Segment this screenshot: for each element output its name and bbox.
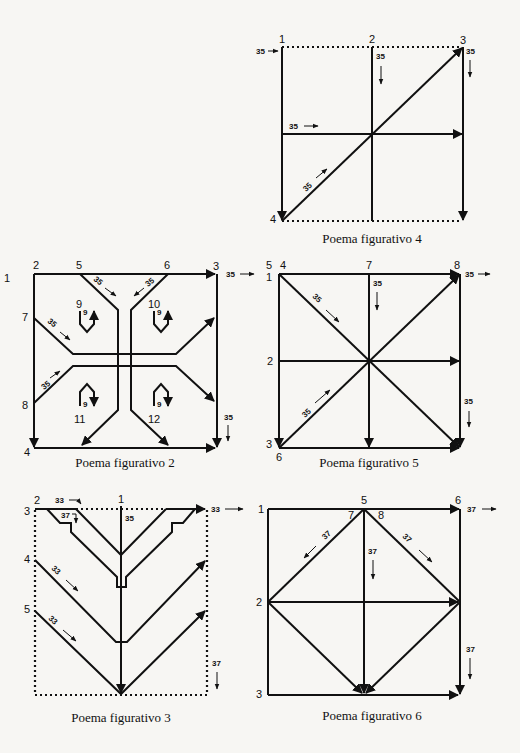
left-vertical-path — [80, 274, 118, 445]
node-label: 1 — [4, 272, 10, 284]
node-label: 8 — [454, 259, 460, 271]
node-label: 5 — [361, 494, 367, 506]
figure-poema-6: 1 2 3 5 6 7 8 37 37 37 37 37 Poema figur… — [256, 494, 496, 723]
count-label: 35 — [376, 52, 385, 61]
node-label: 2 — [267, 355, 273, 367]
node-label: 5 — [76, 259, 82, 271]
node-label: 4 — [24, 446, 30, 458]
node-label: 3 — [213, 260, 219, 272]
figure-caption: Poema figurativo 3 — [71, 710, 171, 725]
count-label: 9 — [83, 308, 88, 317]
node-label: 3 — [256, 688, 262, 700]
count-label: 35 — [373, 279, 382, 288]
flow-arrow-icon — [50, 371, 60, 378]
node-label: 6 — [164, 259, 170, 271]
count-label: 37 — [401, 532, 414, 545]
node-label: 6 — [276, 451, 282, 463]
count-label: 37 — [466, 645, 475, 654]
count-label: 35 — [224, 413, 233, 422]
count-label: 9 — [157, 308, 162, 317]
count-label: 35 — [226, 270, 235, 279]
figure-poema-4: 1 2 3 4 35 35 35 35 35 Poema figurativo … — [256, 33, 475, 246]
node-label: 3 — [266, 438, 272, 450]
node-label: 4 — [24, 553, 30, 565]
count-label: 35 — [289, 122, 298, 131]
flow-arrow-icon — [69, 500, 81, 504]
node-label: 2 — [33, 259, 39, 271]
count-label: 33 — [50, 564, 63, 577]
flow-arrow-icon — [134, 288, 144, 296]
node-label: 5 — [24, 603, 30, 615]
node-label: 12 — [148, 413, 160, 425]
flow-arrow-icon — [419, 550, 432, 562]
figure-caption: Poema figurativo 2 — [75, 455, 175, 470]
count-label: 35 — [46, 317, 59, 330]
figure-caption: Poema figurativo 5 — [319, 455, 419, 470]
node-label: 3 — [460, 34, 466, 46]
diamond-lower-left — [268, 602, 362, 693]
node-label: 7 — [348, 509, 354, 521]
node-label: 2 — [256, 596, 262, 608]
count-label: 9 — [83, 400, 88, 409]
count-label: 35 — [466, 47, 475, 56]
figure-caption: Poema figurativo 4 — [322, 231, 422, 246]
count-label: 35 — [465, 270, 474, 279]
upper-horizontal-path — [34, 318, 214, 354]
figure-caption: Poema figurativo 6 — [322, 708, 422, 723]
lower-horizontal-path — [34, 366, 214, 403]
node-label: 1 — [258, 503, 264, 515]
figure-sheet: 1 2 3 4 35 35 35 35 35 Poema figurativo … — [0, 0, 520, 753]
node-label: 4 — [270, 213, 276, 225]
count-label: 35 — [40, 379, 53, 392]
flow-arrow-icon — [60, 332, 70, 340]
count-label: 37 — [61, 511, 70, 520]
count-label: 35 — [256, 47, 265, 56]
diamond-upper-right — [364, 509, 460, 602]
node-label: 5 — [266, 259, 272, 271]
node-label: 2 — [34, 494, 40, 506]
node-label: 2 — [369, 33, 375, 45]
node-label: 7 — [366, 259, 372, 271]
flow-arrow-icon — [105, 288, 116, 296]
node-label: 3 — [24, 505, 30, 517]
node-label: 11 — [74, 413, 85, 425]
diamond-upper-left — [268, 509, 364, 602]
figure-poema-3: 1 2 3 4 5 33 37 35 33 33 33 37 Poema fig… — [24, 493, 243, 725]
count-label: 9 — [157, 400, 162, 409]
node-label: 8 — [378, 509, 384, 521]
figure-poema-2: 1 2 3 4 5 6 7 8 9 10 11 12 35 35 35 35 3… — [4, 259, 254, 470]
count-label: 35 — [464, 397, 473, 406]
node-label: 7 — [22, 311, 28, 323]
flow-arrow-icon — [316, 169, 327, 178]
count-label: 33 — [55, 496, 64, 505]
count-label: 37 — [467, 505, 476, 514]
node-label: 6 — [455, 494, 461, 506]
count-label: 35 — [311, 292, 324, 305]
node-label: 8 — [22, 399, 28, 411]
count-label: 35 — [125, 514, 134, 523]
count-label: 33 — [211, 505, 220, 514]
flow-arrow-icon — [72, 514, 76, 523]
diamond-lower-right — [366, 602, 460, 693]
figure-poema-5: 5 1 4 7 8 2 3 6 35 35 35 35 35 Poema fig… — [266, 259, 490, 470]
flow-arrow-icon — [66, 580, 78, 591]
node-label: 1 — [279, 33, 285, 45]
node-label: 1 — [118, 493, 124, 505]
count-label: 37 — [212, 659, 221, 668]
count-label: 37 — [368, 547, 377, 556]
node-label: 4 — [280, 259, 286, 271]
node-label: 1 — [266, 271, 272, 283]
node-label: 9 — [76, 298, 82, 310]
